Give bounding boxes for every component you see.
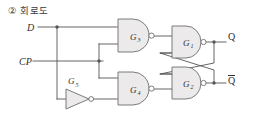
gate-g3-label: G	[130, 32, 137, 42]
junction-dot-qbar	[212, 81, 215, 84]
gate-g1-label: G	[183, 38, 190, 48]
gate-g1: G 1	[172, 26, 206, 58]
gate-g2: G 2	[172, 67, 206, 99]
gate-g5-inverter: G 5	[66, 76, 94, 109]
gate-g2-label: G	[183, 79, 190, 89]
output-label-qbar: Q	[228, 75, 235, 86]
input-label-d: D	[27, 22, 34, 33]
gate-g1-subscript: 1	[191, 43, 194, 49]
junction-dot-d	[55, 25, 58, 28]
junction-dot-cp	[97, 59, 100, 62]
gate-g3-subscript: 3	[137, 37, 141, 43]
input-label-cp: CP	[19, 56, 32, 67]
junction-dot-q	[212, 40, 215, 43]
gate-g4-subscript: 4	[138, 90, 141, 96]
gate-g5-label: G	[68, 76, 75, 86]
gate-g5-subscript: 5	[76, 82, 79, 88]
gate-g4-label: G	[130, 85, 137, 95]
circuit-diagram-screenshot: ② 회로도	[0, 0, 253, 114]
output-label-qbar-text: Q	[228, 75, 235, 86]
logic-circuit-canvas: G 3 G 4 G 1 G 2 G 5	[0, 0, 253, 114]
gate-g3: G 3	[118, 19, 154, 52]
gate-g4: G 4	[118, 72, 154, 105]
gate-g2-subscript: 2	[191, 84, 194, 90]
output-label-q: Q	[228, 31, 235, 42]
